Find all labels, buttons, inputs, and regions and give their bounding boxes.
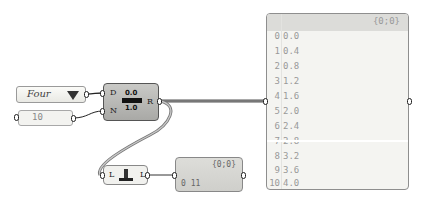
panel-row: 20.8: [267, 61, 299, 76]
panel-row: 62.4: [267, 121, 299, 136]
panel-header: {0;0}: [267, 14, 408, 31]
input-l[interactable]: L: [109, 170, 114, 179]
panel-row: 0 11: [181, 179, 200, 188]
value-list-dropdown[interactable]: Four: [16, 86, 86, 103]
series-icon: 0.0 1.0: [122, 89, 142, 115]
input-grip[interactable]: [14, 114, 19, 121]
length-panel[interactable]: {0;0} 0 11: [175, 157, 243, 192]
output-grip[interactable]: [241, 172, 246, 179]
dropdown-triangle-icon[interactable]: [67, 91, 79, 100]
panel-row: 00.0: [267, 31, 299, 46]
panel-row: 41.6: [267, 91, 299, 106]
panel-row: 104.0: [267, 178, 299, 190]
input-grip[interactable]: [172, 172, 177, 179]
list-length-icon: [119, 169, 133, 182]
number-panel[interactable]: 10: [18, 110, 73, 126]
number-panel-value: 10: [32, 112, 43, 122]
value-list-selected: Four: [27, 88, 51, 99]
panel-path: {0;0}: [212, 160, 236, 169]
input-d[interactable]: D: [110, 88, 116, 97]
panel-row: 72.8: [267, 136, 299, 151]
input-grip[interactable]: [100, 172, 105, 179]
input-grip[interactable]: [263, 98, 268, 105]
series-component[interactable]: D N R 0.0 1.0: [103, 83, 159, 121]
output-grip[interactable]: [407, 98, 412, 105]
output-panel[interactable]: {0;0} 00.0 10.4 20.8 31.2 41.6 52.0 62.4…: [266, 13, 409, 190]
list-length-component[interactable]: L L: [103, 165, 148, 185]
input-grip-n[interactable]: [100, 108, 105, 115]
panel-row: 83.2: [267, 151, 299, 166]
output-grip[interactable]: [71, 115, 76, 122]
output-grip[interactable]: [84, 91, 89, 98]
panel-row: 10.4: [267, 46, 299, 61]
output-grip-r[interactable]: [157, 98, 162, 105]
panel-row: 31.2: [267, 76, 299, 91]
output-r[interactable]: R: [147, 97, 153, 106]
output-grip[interactable]: [145, 172, 150, 179]
input-n[interactable]: N: [110, 106, 117, 115]
panel-path: {0;0}: [373, 16, 400, 26]
input-grip-d[interactable]: [100, 90, 105, 97]
panel-row: 52.0: [267, 106, 299, 121]
